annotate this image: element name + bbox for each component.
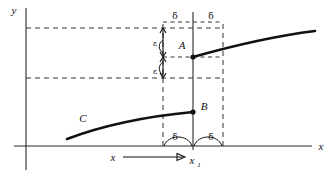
y-axis-label: y xyxy=(11,4,17,16)
delta-brace-left xyxy=(164,137,192,146)
curve-upper-branch xyxy=(193,31,315,57)
delta-label-bottom-left: δ xyxy=(172,132,177,142)
delta-label-bottom-right: δ xyxy=(208,132,213,142)
point-b-label: B xyxy=(201,100,208,112)
point-a-dot xyxy=(190,54,195,59)
epsilon-brace-lower xyxy=(159,62,163,75)
x-axis-label: x xyxy=(318,140,324,152)
epsilon-label-upper: ε xyxy=(153,39,157,48)
epsilon-delta-diagram: y x A B C δ δ δ δ ε ε x 1 x xyxy=(0,0,332,178)
x-approaches-arrow xyxy=(123,154,185,161)
point-a-label: A xyxy=(178,39,186,51)
x1-subscript: 1 xyxy=(197,161,201,169)
epsilon-brace-upper xyxy=(159,40,163,53)
curve-c-label: C xyxy=(79,112,87,124)
delta-label-top-left: δ xyxy=(172,11,177,21)
figure-container: y x A B C δ δ δ δ ε ε x 1 x xyxy=(0,0,332,178)
x1-base: x xyxy=(189,154,195,166)
epsilon-label-lower: ε xyxy=(153,67,157,76)
delta-label-top-right: δ xyxy=(208,11,213,21)
x-approaches-label: x xyxy=(110,151,116,163)
x1-tick-label: x 1 xyxy=(189,154,201,169)
point-b-dot xyxy=(190,109,195,114)
